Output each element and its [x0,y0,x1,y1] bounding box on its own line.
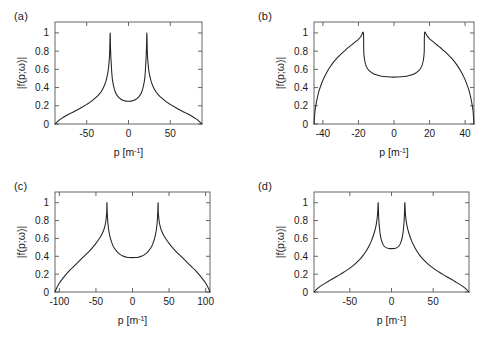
y-tick-label: 1 [302,197,308,208]
x-axis-title: p [m-1] [379,146,409,158]
axes-frame [55,22,202,124]
y-tick-label: 0.4 [35,251,49,262]
y-tick-label: 0.2 [35,269,49,280]
subplot-d: (d) -5005000.20.40.60.81p [m-1]|f(p;ω)| [248,170,489,338]
y-tick-label: 0.6 [294,64,308,75]
data-curve [55,33,202,124]
plot-d: -5005000.20.40.60.81p [m-1]|f(p;ω)| [248,170,489,338]
plot-c: -100-5005010000.20.40.60.81p [m-1]|f(p;ω… [0,170,230,338]
y-tick-label: 0.6 [35,64,49,75]
x-tick-label: -50 [343,296,358,307]
y-tick-label: 0.2 [35,100,49,111]
axes-frame [55,192,210,292]
y-axis-title: |f(p;ω)| [15,226,27,258]
y-tick-label: 0.4 [35,82,49,93]
x-tick-label: 40 [460,128,472,139]
figure-container: (a) -5005000.20.40.60.81p [m-1]|f(p;ω)| … [0,0,489,338]
x-tick-label: -50 [89,296,104,307]
panel-label-c: (c) [14,180,27,192]
plot-a: -5005000.20.40.60.81p [m-1]|f(p;ω)| [0,0,230,170]
x-tick-label: -50 [80,128,95,139]
y-axis-title: |f(p;ω)| [274,226,286,258]
y-tick-label: 0.4 [294,82,308,93]
y-tick-label: 0.6 [35,233,49,244]
panel-label-d: (d) [258,180,272,192]
x-axis-title: p [m-1] [118,314,148,326]
y-tick-label: 0.8 [35,215,49,226]
x-tick-label: 0 [389,296,395,307]
data-curve [55,203,210,292]
data-curve [314,32,474,124]
y-axis-title: |f(p;ω)| [15,57,27,89]
x-tick-label: 0 [130,296,136,307]
y-tick-label: 0.8 [35,46,49,57]
x-tick-label: -100 [49,296,69,307]
axes-frame [314,22,474,124]
axes-frame [314,192,469,292]
y-tick-label: 0.2 [294,269,308,280]
panel-label-a: (a) [14,10,28,22]
y-tick-label: 0.8 [294,215,308,226]
y-tick-label: 0 [43,119,49,130]
x-tick-label: 0 [391,128,397,139]
x-tick-label: 50 [428,296,440,307]
x-tick-label: 50 [165,128,177,139]
x-tick-label: 50 [163,296,175,307]
y-tick-label: 1 [43,27,49,38]
y-tick-label: 0.4 [294,251,308,262]
y-tick-label: 1 [43,197,49,208]
panel-label-b: (b) [258,10,272,22]
x-axis-title: p [m-1] [114,146,144,158]
y-tick-label: 0.8 [294,46,308,57]
subplot-b: (b) -40-200204000.20.40.60.81p [m-1]|f(p… [248,0,489,170]
data-curve [314,203,469,292]
x-axis-title: p [m-1] [377,314,407,326]
subplot-c: (c) -100-5005010000.20.40.60.81p [m-1]|f… [0,170,230,338]
y-tick-label: 0 [302,287,308,298]
y-tick-label: 0 [43,287,49,298]
subplot-a: (a) -5005000.20.40.60.81p [m-1]|f(p;ω)| [0,0,230,170]
y-axis-title: |f(p;ω)| [274,57,286,89]
x-tick-label: 100 [197,296,214,307]
x-tick-label: 0 [126,128,132,139]
y-tick-label: 0 [302,119,308,130]
x-tick-label: -20 [351,128,366,139]
y-tick-label: 1 [302,27,308,38]
y-tick-label: 0.2 [294,100,308,111]
plot-b: -40-200204000.20.40.60.81p [m-1]|f(p;ω)| [248,0,489,170]
y-tick-label: 0.6 [294,233,308,244]
x-tick-label: -40 [316,128,331,139]
x-tick-label: 20 [424,128,436,139]
